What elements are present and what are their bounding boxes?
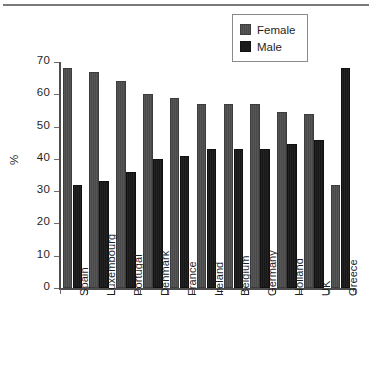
female-swatch-icon: [240, 24, 251, 35]
y-tick-label: 40: [4, 151, 50, 163]
y-tick-mark: [54, 191, 59, 192]
y-tick-label: 0: [4, 280, 50, 292]
bar-female-belgium: [224, 104, 234, 288]
bar-group: [277, 62, 297, 288]
bar-group: [304, 62, 324, 288]
y-tick-label: 30: [4, 183, 50, 195]
bar-group: [197, 62, 217, 288]
bar-group: [331, 62, 351, 288]
chart-figure: Female Male % 010203040506070 SpainLuxem…: [0, 0, 372, 367]
bar-female-holland: [277, 112, 287, 288]
legend-label-female: Female: [257, 24, 295, 36]
x-label-belgium: Belgium: [239, 256, 251, 296]
bar-female-portugal: [116, 81, 126, 288]
y-tick-label: 20: [4, 215, 50, 227]
y-tick-mark: [54, 62, 59, 63]
bar-female-luxembourg: [89, 72, 99, 288]
legend-label-male: Male: [257, 41, 282, 53]
y-tick-mark: [54, 223, 59, 224]
bar-male-uk: [314, 140, 324, 288]
x-axis-line: [59, 288, 355, 290]
top-divider-rule: [3, 4, 369, 6]
bar-group: [224, 62, 244, 288]
y-tick-mark: [54, 94, 59, 95]
chart-legend: Female Male: [232, 14, 308, 62]
x-label-luxembourg: Luxembourg: [105, 234, 117, 296]
y-tick-mark: [54, 256, 59, 257]
x-label-france: France: [186, 261, 198, 296]
y-tick-label: 70: [4, 54, 50, 66]
legend-item-female: Female: [240, 21, 300, 38]
bar-female-denmark: [143, 94, 153, 288]
y-tick-label: 60: [4, 86, 50, 98]
y-tick-mark: [54, 159, 59, 160]
bar-group: [63, 62, 83, 288]
male-swatch-icon: [240, 41, 251, 52]
x-label-uk: UK: [320, 281, 332, 296]
bar-group: [170, 62, 190, 288]
bar-female-ireland: [197, 104, 207, 288]
x-label-greece: Greece: [347, 259, 359, 296]
x-label-germany: Germany: [266, 250, 278, 296]
legend-item-male: Male: [240, 38, 300, 55]
x-label-portugal: Portugal: [132, 254, 144, 296]
y-tick-label: 10: [4, 248, 50, 260]
x-label-ireland: Ireland: [213, 262, 225, 296]
bar-male-greece: [341, 68, 351, 288]
y-tick-label: 50: [4, 119, 50, 131]
bar-female-germany: [250, 104, 260, 288]
bar-female-france: [170, 98, 180, 288]
y-tick-mark: [54, 288, 59, 289]
x-label-spain: Spain: [78, 267, 90, 296]
bar-female-greece: [331, 185, 341, 288]
x-tick-mark: [60, 289, 61, 294]
x-label-holland: Holland: [293, 258, 305, 296]
y-tick-mark: [54, 127, 59, 128]
x-label-denmark: Denmark: [159, 251, 171, 296]
bar-female-uk: [304, 114, 314, 288]
bar-female-spain: [63, 68, 73, 288]
